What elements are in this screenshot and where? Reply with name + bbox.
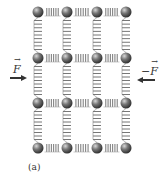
ball-icon: [121, 53, 132, 64]
ball-icon: [33, 98, 44, 109]
vertical-spring: [63, 109, 71, 143]
ball-icon: [62, 53, 73, 64]
ball-icon: [33, 7, 44, 18]
vertical-spring: [93, 18, 101, 53]
ball-icon: [62, 7, 73, 18]
vertical-spring: [63, 18, 71, 53]
ball-icon: [92, 98, 103, 109]
horizontal-spring: [104, 99, 120, 107]
ball-icon: [121, 98, 132, 109]
figure-caption: (a): [28, 162, 40, 172]
vector-arrow-icon: →: [151, 58, 158, 66]
horizontal-spring: [74, 144, 91, 152]
force-label-right: −→F: [141, 66, 158, 77]
vertical-spring: [34, 109, 42, 143]
horizontal-spring: [104, 54, 120, 62]
spring-lattice-diagram: → F −→F (a): [0, 0, 164, 183]
horizontal-spring: [45, 99, 61, 107]
ball-icon: [33, 143, 44, 154]
vertical-spring: [34, 18, 42, 53]
vertical-spring: [122, 64, 130, 98]
vertical-spring: [93, 109, 101, 143]
ball-icon: [62, 143, 73, 154]
lattice-svg: [0, 0, 164, 183]
vertical-spring: [122, 109, 130, 143]
force-arrows: [10, 75, 155, 83]
ball-icon: [33, 53, 44, 64]
balls: [33, 7, 132, 154]
horizontal-spring: [104, 144, 120, 152]
ball-icon: [92, 53, 103, 64]
vertical-spring: [93, 64, 101, 98]
ball-icon: [121, 143, 132, 154]
horizontal-spring: [104, 8, 120, 16]
horizontal-spring: [74, 8, 91, 16]
vertical-spring: [34, 64, 42, 98]
horizontal-spring: [45, 8, 61, 16]
ball-icon: [121, 7, 132, 18]
horizontal-spring: [74, 99, 91, 107]
horizontal-spring: [45, 144, 61, 152]
ball-icon: [92, 7, 103, 18]
horizontal-spring: [45, 54, 61, 62]
vertical-spring: [63, 64, 71, 98]
vertical-spring: [122, 18, 130, 53]
vector-arrow-icon: →: [14, 56, 21, 64]
force-label-left: → F: [13, 64, 21, 75]
horizontal-spring: [74, 54, 91, 62]
ball-icon: [62, 98, 73, 109]
ball-icon: [92, 143, 103, 154]
springs: [34, 8, 130, 152]
